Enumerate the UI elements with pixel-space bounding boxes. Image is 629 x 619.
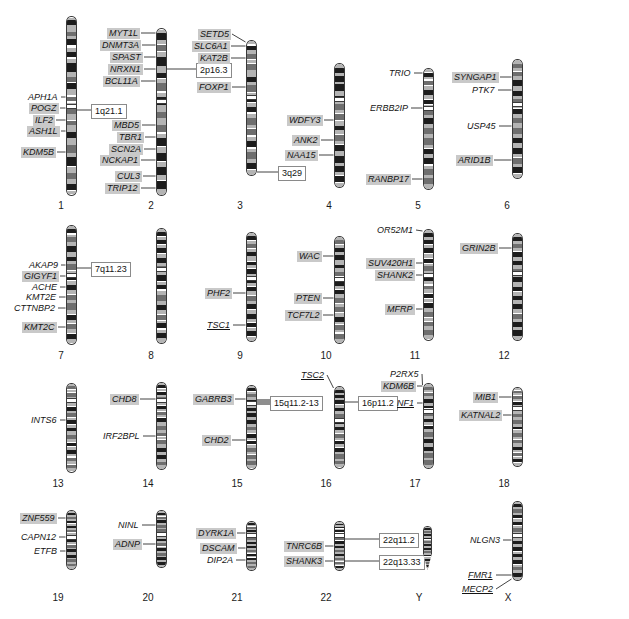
chromosome-band	[335, 339, 344, 343]
gene-label-TBR1: TBR1	[117, 132, 144, 143]
chromosome-band	[247, 331, 256, 337]
chromosome-band	[513, 167, 522, 173]
gene-label-CHD2: CHD2	[202, 435, 231, 446]
centromere	[66, 273, 77, 278]
centromere	[66, 104, 77, 109]
gene-label-SUV420H1: SUV420H1	[366, 258, 415, 269]
chromosome-band	[67, 420, 76, 424]
chromosome-band	[157, 181, 166, 189]
gene-label-MYT1L: MYT1L	[107, 28, 140, 39]
chromosome-band	[424, 303, 433, 308]
chromosome-band	[157, 240, 166, 244]
chromosome-band	[67, 329, 76, 332]
chromosome-17	[423, 383, 434, 469]
gene-label-SPAST: SPAST	[110, 52, 143, 63]
chromosome-number-21: 21	[227, 592, 247, 603]
leader-line	[422, 374, 423, 385]
leader-line	[232, 34, 246, 42]
gene-label-ADNP: ADNP	[113, 539, 142, 550]
chromosome-7	[66, 225, 77, 345]
chromosome-band	[157, 138, 166, 146]
chromosome-band	[67, 252, 76, 257]
chromosome-number-12: 12	[494, 350, 514, 361]
gene-label-PTK7: PTK7	[470, 85, 497, 96]
gene-label-KDM6B: KDM6B	[381, 381, 416, 392]
gene-label-APH1A: APH1A	[26, 92, 60, 103]
chromosome-band	[513, 330, 522, 336]
gene-label-AKAP9: AKAP9	[27, 260, 60, 271]
centromere	[512, 406, 523, 411]
chromosome-band	[513, 453, 522, 457]
chromosome-band	[335, 286, 344, 290]
chromosome-band	[67, 413, 76, 417]
gene-label-KAT2B: KAT2B	[198, 53, 230, 64]
chromosome-band	[247, 283, 256, 287]
chromosome-number-17: 17	[405, 478, 425, 489]
chromosome-band	[335, 172, 344, 175]
gene-label-NF1: NF1	[395, 398, 416, 409]
chromosome-band	[513, 515, 522, 519]
gene-label-BCL11A: BCL11A	[103, 76, 140, 87]
gene-label-ARID1B: ARID1B	[456, 155, 493, 166]
chromosome-band	[513, 277, 522, 282]
gene-label-KATNAL2: KATNAL2	[459, 410, 502, 421]
chromosome-band	[424, 77, 433, 80]
chromosome-14	[156, 382, 167, 470]
chromosome-band	[247, 141, 256, 147]
chromosome-band	[247, 304, 256, 309]
chromosome-band	[67, 339, 76, 343]
chromosome-band	[157, 167, 166, 175]
gene-label-KMT2E: KMT2E	[24, 292, 58, 303]
chromosome-band	[513, 437, 522, 439]
chromosome-band	[67, 63, 76, 72]
chromosome-band	[247, 54, 256, 59]
chromosome-band	[335, 151, 344, 156]
gene-label-ETFB: ETFB	[32, 546, 59, 557]
chromosome-band	[67, 461, 76, 463]
centromere	[334, 418, 345, 423]
gene-label-DYRK1A: DYRK1A	[196, 528, 236, 539]
centromere	[156, 398, 167, 403]
gene-label-TRIP12: TRIP12	[105, 183, 140, 194]
band-callout-7q11.23: 7q11.23	[91, 262, 131, 277]
chromosome-band	[157, 338, 166, 343]
chromosome-number-2: 2	[141, 200, 161, 211]
centromere	[512, 271, 523, 276]
band-callout-3q29: 3q29	[278, 166, 306, 181]
chromosome-band	[513, 154, 522, 157]
gene-label-SHANK2: SHANK2	[375, 270, 415, 281]
gene-label-POGZ: POGZ	[29, 103, 59, 114]
chromosome-ideogram-figure: APH1APOGZILF2ASH1LKDM5B1q21.1MYT1LDNMT3A…	[0, 0, 629, 619]
chromosome-band	[513, 287, 522, 292]
chromosome-band	[424, 169, 433, 175]
centromere	[156, 99, 167, 104]
chromosome-13	[66, 383, 77, 473]
gene-label-WAC: WAC	[297, 251, 322, 262]
chromosome-18	[512, 387, 523, 467]
chromosome-band	[247, 441, 256, 445]
chromosome-band	[247, 256, 256, 261]
chromosome-band	[67, 97, 76, 101]
chromosome-band	[335, 298, 344, 303]
chromosome-band	[335, 176, 344, 182]
band-callout-connector	[257, 399, 270, 405]
chromosome-band	[424, 240, 433, 244]
gene-label-FMR1: FMR1	[466, 570, 495, 581]
chromosome-band	[335, 255, 344, 260]
chromosome-band	[424, 318, 433, 322]
chromosome-band	[247, 170, 256, 175]
chromosome-band	[424, 465, 433, 468]
leader-line	[416, 230, 423, 231]
chromosome-band	[157, 83, 166, 90]
chromosome-number-8: 8	[141, 350, 161, 361]
chromosome-band	[157, 147, 166, 153]
gene-label-NINL: NINL	[116, 520, 141, 531]
chromosome-number-9: 9	[230, 350, 250, 361]
chromosome-band	[247, 244, 256, 248]
chromosome-band	[157, 175, 166, 180]
centromere	[512, 533, 523, 538]
chromosome-band	[157, 275, 166, 281]
gene-label-DSCAM: DSCAM	[200, 543, 237, 554]
chromosome-band	[67, 530, 76, 533]
centromere	[156, 532, 167, 537]
